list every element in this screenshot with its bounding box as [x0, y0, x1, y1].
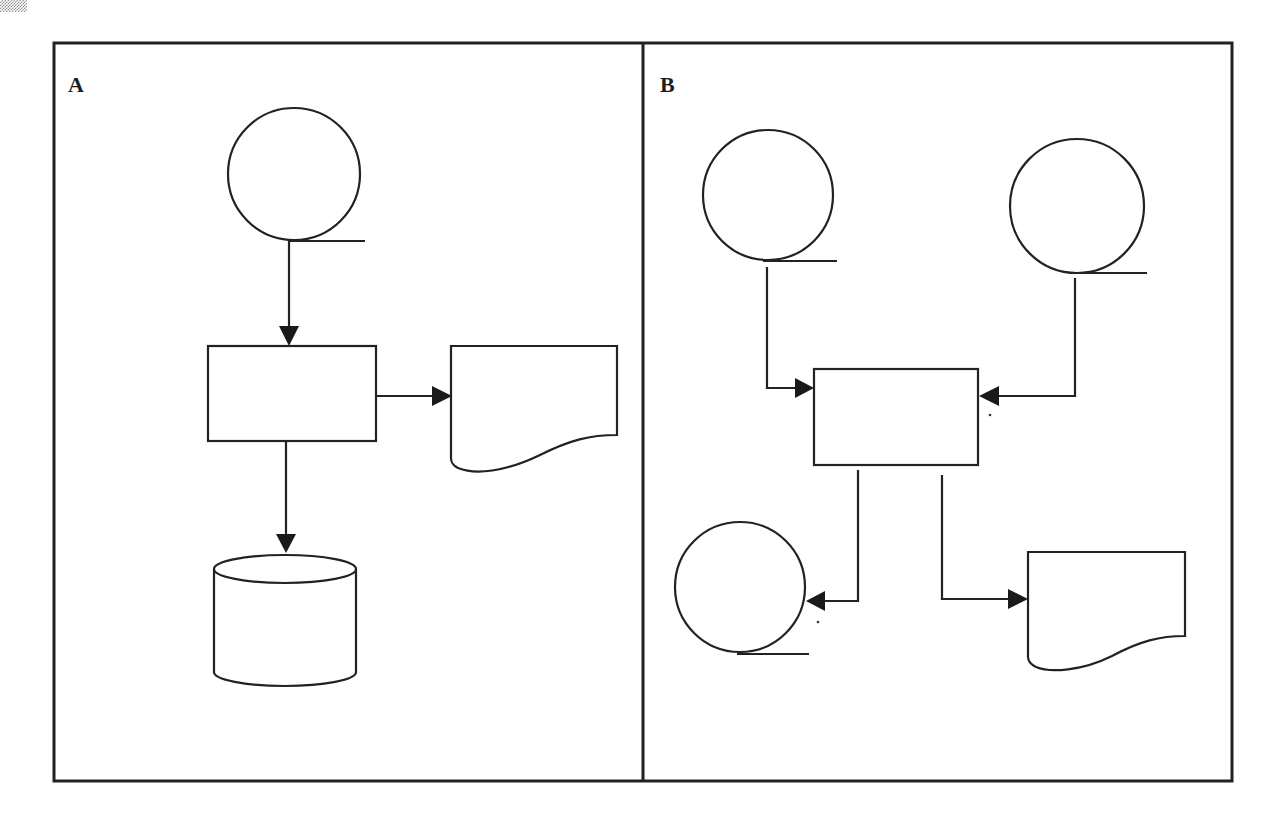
arrow-process-to-storage — [276, 441, 296, 553]
magnetic-tape-icon — [675, 522, 809, 654]
arrow-tape-to-process — [279, 241, 299, 346]
arrow-process-to-document — [376, 386, 452, 406]
arrow-process-to-document — [942, 475, 1028, 609]
panel-b: B — [660, 72, 1185, 670]
flowchart-diagram: A B — [0, 0, 1283, 826]
panel-b-label: B — [660, 72, 675, 97]
document-shape — [1028, 552, 1185, 670]
process-box — [208, 346, 376, 441]
arrow-process-to-tape-out — [806, 470, 858, 611]
magnetic-tape-icon — [703, 130, 837, 261]
document-shape — [451, 346, 617, 472]
scan-speck — [989, 414, 992, 417]
panel-a: A — [68, 72, 617, 686]
scan-speck — [817, 621, 820, 624]
process-box — [814, 369, 978, 465]
panel-a-label: A — [68, 72, 84, 97]
arrow-tape2-to-process — [979, 278, 1075, 406]
disk-storage-cylinder — [214, 555, 356, 686]
arrow-tape1-to-process — [767, 267, 814, 398]
magnetic-tape-icon — [228, 108, 365, 241]
magnetic-tape-icon — [1010, 139, 1147, 273]
